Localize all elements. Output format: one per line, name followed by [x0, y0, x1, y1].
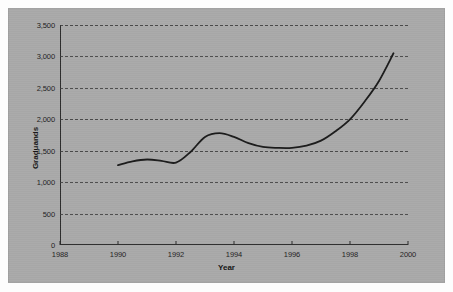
series-path: [118, 53, 394, 165]
x-tick-label: 1988: [52, 250, 68, 259]
x-tick-label: 1996: [284, 250, 300, 259]
chart-figure: 05001,0001,5002,0002,5003,0003,500 19881…: [8, 8, 445, 283]
chart-screenshot: 05001,0001,5002,0002,5003,0003,500 19881…: [0, 0, 453, 292]
y-tick-label: 2,000: [37, 115, 55, 124]
data-series-line: [60, 25, 408, 245]
x-tick-label: 1990: [110, 250, 126, 259]
y-tick-label: 3,000: [37, 52, 55, 61]
x-tick-label: 1992: [168, 250, 184, 259]
y-tick-label: 1,000: [37, 178, 55, 187]
plot-area: 05001,0001,5002,0002,5003,0003,500 19881…: [60, 25, 408, 245]
y-axis-title: Graduands: [31, 127, 40, 169]
x-tick-label: 1998: [342, 250, 358, 259]
y-tick-label: 2,500: [37, 83, 55, 92]
y-tick-label: 0: [51, 241, 55, 250]
y-tick-label: 3,500: [37, 21, 55, 30]
x-axis-title: Year: [218, 263, 235, 272]
x-tick-label: 2000: [400, 250, 416, 259]
y-tick-label: 500: [43, 209, 55, 218]
x-tick-label: 1994: [226, 250, 242, 259]
